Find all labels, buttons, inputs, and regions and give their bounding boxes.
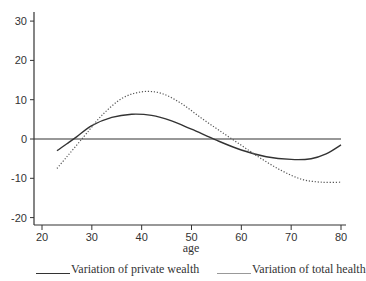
series-group (57, 91, 341, 182)
x-tick-label: 70 (285, 231, 297, 243)
y-ticks: 3020100-10-20 (11, 15, 34, 224)
axes: 3020100-10-20 20304050607080 age (11, 12, 347, 255)
legend-label: Variation of private wealth (71, 262, 199, 277)
x-tick-label: 40 (136, 231, 148, 243)
series-total-health-line (57, 91, 341, 182)
x-tick-label: 20 (36, 231, 48, 243)
y-tick-label: -20 (11, 212, 27, 224)
dotted-line-swatch-icon (217, 273, 251, 274)
y-tick-label: 20 (15, 54, 27, 66)
x-tick-label: 60 (235, 231, 247, 243)
legend-item-total-health: Variation of total health (217, 262, 366, 277)
x-tick-label: 80 (335, 231, 347, 243)
line-chart: 3020100-10-20 20304050607080 age (0, 0, 363, 262)
x-tick-label: 30 (86, 231, 98, 243)
y-tick-label: 30 (15, 15, 27, 27)
x-axis-title: age (183, 241, 200, 255)
y-tick-label: -10 (11, 172, 27, 184)
y-tick-label: 0 (21, 133, 27, 145)
y-tick-label: 10 (15, 94, 27, 106)
legend: Variation of private wealth Variation of… (0, 262, 363, 280)
legend-label: Variation of total health (252, 262, 366, 277)
series-private-wealth-line (57, 114, 341, 159)
legend-item-private-wealth: Variation of private wealth (36, 262, 199, 277)
solid-line-swatch-icon (36, 273, 70, 274)
